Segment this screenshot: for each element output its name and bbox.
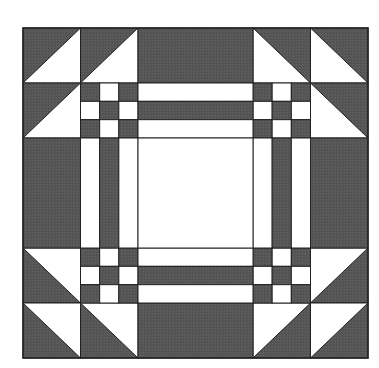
ninepatch-light <box>100 120 119 138</box>
quilt-block-diagram <box>0 0 379 368</box>
strip-light <box>119 138 138 248</box>
ninepatch-light <box>253 101 272 119</box>
ninepatch-dark <box>119 285 138 303</box>
ninepatch-light <box>272 285 291 303</box>
ninepatch-light <box>81 101 100 119</box>
strip-light <box>138 120 253 138</box>
ninepatch-light <box>100 285 119 303</box>
ninepatch-light <box>291 266 310 284</box>
ninepatch-dark <box>253 83 272 101</box>
strip-light <box>138 248 253 266</box>
ninepatch-dark <box>100 266 119 284</box>
ninepatch-light <box>253 266 272 284</box>
strip-light <box>138 285 253 303</box>
top-dark-panel <box>138 28 253 83</box>
strip-dark <box>138 266 253 284</box>
strip-dark <box>138 101 253 119</box>
strip-light <box>291 138 310 248</box>
ninepatch-dark <box>81 285 100 303</box>
ninepatch-light <box>272 248 291 266</box>
ninepatch-dark <box>253 248 272 266</box>
ninepatch-dark <box>253 285 272 303</box>
strip-light <box>81 138 100 248</box>
ninepatch-light <box>100 248 119 266</box>
strip-dark <box>100 138 119 248</box>
ninepatch-dark <box>81 248 100 266</box>
ninepatch-light <box>272 83 291 101</box>
ninepatch-dark <box>291 83 310 101</box>
ninepatch-dark <box>100 101 119 119</box>
ninepatch-light <box>272 120 291 138</box>
ninepatch-dark <box>81 120 100 138</box>
strip-light <box>253 138 272 248</box>
ninepatch-dark <box>272 266 291 284</box>
ninepatch-light <box>119 266 138 284</box>
ninepatch-light <box>100 83 119 101</box>
strip-dark <box>272 138 291 248</box>
ninepatch-dark <box>272 101 291 119</box>
right-dark-panel <box>311 138 369 248</box>
ninepatch-dark <box>119 120 138 138</box>
ninepatch-dark <box>119 83 138 101</box>
strip-light <box>138 83 253 101</box>
ninepatch-dark <box>81 83 100 101</box>
ninepatch-light <box>291 101 310 119</box>
ninepatch-dark <box>291 248 310 266</box>
ninepatch-dark <box>291 120 310 138</box>
ninepatch-dark <box>253 120 272 138</box>
left-dark-panel <box>23 138 81 248</box>
bottom-dark-panel <box>138 303 253 358</box>
quilt-pieces <box>23 28 368 358</box>
ninepatch-light <box>81 266 100 284</box>
ninepatch-light <box>119 101 138 119</box>
ninepatch-dark <box>119 248 138 266</box>
ninepatch-dark <box>291 285 310 303</box>
center-square <box>138 138 253 248</box>
